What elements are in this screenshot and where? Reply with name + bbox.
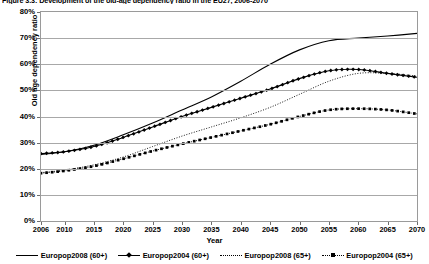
y-tick-label: 80%	[1, 7, 35, 16]
series-marker	[137, 130, 141, 134]
series-marker	[313, 111, 316, 114]
series-marker	[90, 165, 93, 168]
series-marker	[227, 100, 231, 104]
series-marker	[201, 108, 205, 112]
series-marker	[368, 108, 371, 111]
figure-caption: Figure 3.3: Development of the old-age d…	[2, 0, 427, 4]
gridline	[41, 117, 417, 118]
gridline	[41, 169, 417, 170]
y-tick-label: 0%	[1, 216, 35, 225]
series-marker	[51, 171, 54, 174]
series-marker	[220, 134, 223, 137]
series-marker	[340, 68, 344, 72]
series-marker	[407, 111, 410, 114]
legend-line	[220, 255, 242, 256]
legend-item[interactable]: Europop2004 (65+)	[322, 251, 413, 260]
x-tick-mark	[153, 222, 154, 225]
x-tick-mark	[300, 222, 301, 225]
series-marker	[171, 145, 174, 148]
series-marker	[259, 125, 262, 128]
series-marker	[41, 172, 42, 175]
series-marker	[61, 150, 65, 154]
legend-label: Europop2008 (60+)	[41, 251, 107, 260]
series-marker	[169, 119, 173, 123]
series-marker	[329, 108, 332, 111]
series-marker	[144, 152, 147, 155]
series-marker	[122, 157, 125, 160]
series-marker	[357, 107, 360, 110]
y-tick-label: 20%	[1, 164, 35, 173]
x-tick-mark	[241, 222, 242, 225]
series-marker	[307, 113, 310, 116]
legend-label: Europop2004 (60+)	[143, 251, 209, 260]
x-tick-mark	[211, 222, 212, 225]
series-marker	[209, 136, 212, 139]
gridline	[41, 38, 417, 39]
series-marker	[379, 70, 383, 74]
series-marker	[238, 97, 242, 101]
series-marker	[56, 151, 60, 155]
legend-item[interactable]: Europop2008 (60+)	[16, 251, 107, 260]
series-marker	[158, 122, 162, 126]
legend-swatch-icon	[322, 251, 344, 260]
series-marker	[138, 153, 141, 156]
series-marker	[380, 108, 383, 111]
series-marker	[286, 81, 290, 85]
series-marker	[324, 109, 327, 112]
series-marker	[286, 118, 289, 121]
series-line	[41, 109, 417, 174]
series-marker	[312, 72, 316, 76]
series-marker	[217, 103, 221, 107]
series-marker	[41, 152, 43, 156]
series-marker	[329, 69, 333, 73]
x-tick-label: 2070	[397, 225, 429, 234]
series-marker	[346, 67, 350, 71]
y-tick-label: 30%	[1, 138, 35, 147]
x-tick-mark	[94, 222, 95, 225]
series-marker	[363, 107, 366, 110]
series-marker	[413, 112, 416, 115]
legend-item[interactable]: Europop2008 (65+)	[220, 251, 311, 260]
series-marker	[111, 160, 114, 163]
series-marker	[166, 146, 169, 149]
series-marker	[222, 102, 226, 106]
series-marker	[402, 111, 405, 114]
x-tick-mark	[388, 222, 389, 225]
series-marker	[153, 124, 157, 128]
series-marker	[67, 149, 71, 153]
series-marker	[117, 159, 120, 162]
series-marker	[242, 129, 245, 132]
series-marker	[275, 121, 278, 124]
y-axis-ticks: 0%10%20%30%40%50%60%70%80%	[0, 0, 38, 222]
series-marker	[50, 151, 54, 155]
legend-label: Europop2004 (65+)	[346, 251, 412, 260]
series-marker	[264, 124, 267, 127]
series-marker	[126, 134, 130, 138]
series-marker	[323, 70, 327, 74]
series-marker	[275, 85, 279, 89]
series-marker	[254, 92, 258, 96]
series-marker	[243, 95, 247, 99]
series-line	[41, 69, 417, 153]
legend-item[interactable]: Europop2004 (60+)	[118, 251, 209, 260]
y-tick-label: 60%	[1, 59, 35, 68]
series-marker	[296, 77, 300, 81]
series-marker	[396, 73, 400, 77]
x-tick-mark	[270, 222, 271, 225]
series-line	[41, 33, 417, 154]
series-marker	[318, 71, 322, 75]
y-tick-label: 50%	[1, 85, 35, 94]
series-marker	[351, 67, 355, 71]
series-marker	[56, 170, 59, 173]
series-marker	[237, 130, 240, 133]
series-marker	[142, 128, 146, 132]
series-marker	[357, 68, 361, 72]
series-marker	[132, 132, 136, 136]
series-marker	[318, 110, 321, 113]
gridline	[41, 195, 417, 196]
legend-line	[16, 255, 38, 256]
series-marker	[249, 93, 253, 97]
legend-swatch-icon	[118, 251, 140, 260]
series-marker	[281, 83, 285, 87]
series-marker	[45, 171, 48, 174]
